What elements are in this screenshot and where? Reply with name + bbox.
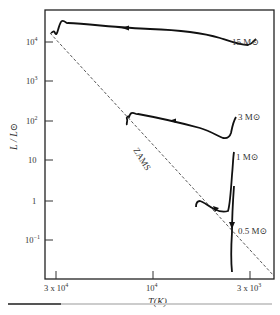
y-axis-tick-labels: 104 103 102 10 1 10−1 — [25, 36, 40, 245]
x-tick-3e4: 3 x 104 — [44, 282, 68, 293]
track-1msun — [196, 152, 234, 212]
label-15msun: 15 M⊙ — [232, 37, 259, 47]
arrow-15msun-icon — [122, 26, 129, 31]
x-axis-title: T(K) — [148, 296, 168, 308]
zams-label: ZAMS — [131, 146, 153, 173]
caption-rule — [8, 303, 272, 305]
y-tick-1: 1 — [32, 196, 36, 206]
x-axis-ticks — [56, 271, 250, 279]
hr-diagram: 104 103 102 10 1 10−1 3 x 104 104 3 x 10… — [0, 0, 280, 315]
arrow-3msun-icon — [170, 119, 176, 124]
y-axis-title: L / L⊙ — [8, 123, 19, 151]
track-15msun — [51, 21, 256, 45]
label-1msun: 1 M⊙ — [236, 152, 258, 162]
y-tick-1e4: 104 — [26, 36, 38, 47]
y-tick-1e3: 103 — [26, 75, 38, 86]
label-3msun: 3 M⊙ — [238, 112, 260, 122]
track-05msun — [231, 186, 234, 272]
x-tick-1e4: 104 — [146, 282, 158, 293]
label-05msun: 0.5 M⊙ — [238, 226, 267, 236]
y-tick-10: 10 — [28, 155, 37, 165]
x-tick-3e3: 3 x 103 — [237, 282, 261, 293]
y-tick-1e-1: 10−1 — [25, 234, 40, 245]
y-tick-1e2: 102 — [26, 115, 38, 126]
x-axis-tick-labels: 3 x 104 104 3 x 103 — [44, 282, 261, 293]
plot-frame — [45, 10, 274, 279]
y-axis-ticks — [45, 42, 53, 240]
